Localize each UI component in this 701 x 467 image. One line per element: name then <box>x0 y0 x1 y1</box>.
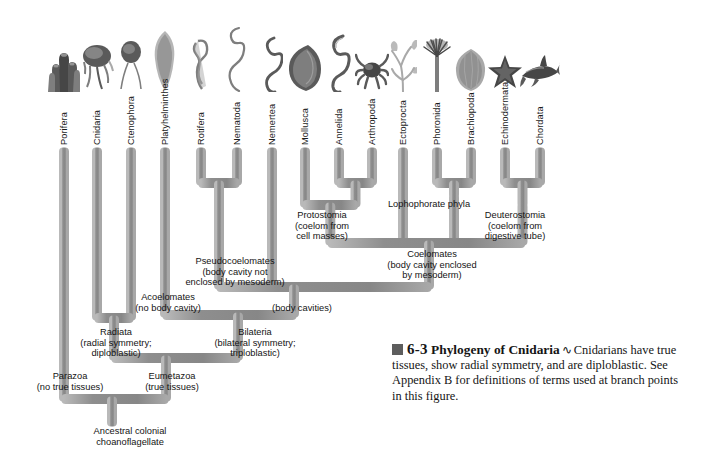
node-label-root: Ancestral colonial choanoflagellate <box>62 426 198 447</box>
taxon-label-rotifera: Rotifera <box>196 112 206 145</box>
filled-square-marker-icon <box>392 344 403 355</box>
branch-segment <box>110 399 115 424</box>
node-label-pseudocoelomates: Pseudocoelomates (body cavity not enclos… <box>162 256 308 288</box>
taxon-label-nemertea: Nemertea <box>267 104 277 145</box>
node-label-eumetazoa: Eumetazoa (true tissues) <box>124 371 220 392</box>
branch-segment <box>163 150 168 315</box>
taxon-label-brachiopoda: Brachiopoda <box>466 92 476 145</box>
branch-segment <box>95 150 100 318</box>
taxon-label-platyhelminthes: Platyhelminthes <box>160 79 170 145</box>
tilde-icon: ∿ <box>562 343 572 357</box>
taxon-label-cnidaria: Cnidaria <box>92 110 102 145</box>
node-label-radiata: Radiata (radial symmetry; diploblastic) <box>62 327 170 359</box>
taxon-label-nematoda: Nematoda <box>232 102 242 145</box>
taxon-label-phoronida: Phoronida <box>432 102 442 145</box>
node-label-body-cavities: (body cavities) <box>258 303 346 314</box>
taxon-label-mollusca: Mollusca <box>300 108 310 145</box>
node-label-coelomates: Coelomates (body cavity enclosed by meso… <box>358 249 506 281</box>
node-label-bilateria: Bilateria (bilateral symmetry; triplobla… <box>192 327 318 359</box>
node-label-lophophorate: Lophophorate phyla <box>381 199 477 210</box>
phylogeny-figure: PoriferaCnidariaCtenophoraPlatyhelminthe… <box>0 0 701 467</box>
node-label-deuterostomia: Deuterostomia (coelom from digestive tub… <box>474 210 556 242</box>
branch-segment <box>401 150 406 243</box>
node-label-acoelomates: Acoelomates (no body cavity) <box>118 292 218 313</box>
branch-segment <box>303 150 308 205</box>
caption-title: Phylogeny of Cnidaria <box>431 342 560 357</box>
figure-caption: 6-3 Phylogeny of Cnidaria∿Cnidarians hav… <box>392 342 688 404</box>
taxon-label-chordata: Chordata <box>535 106 545 145</box>
taxon-label-annelida: Annelida <box>334 108 344 145</box>
taxon-label-ectoprocta: Ectoprocta <box>398 100 408 145</box>
branch-segment <box>62 150 67 399</box>
taxon-label-echinodermata: Echinodermata <box>500 82 510 145</box>
branch-segment <box>520 183 525 205</box>
taxon-label-ctenophora: Ctenophora <box>126 96 136 145</box>
caption-number: 6-3 <box>407 341 428 357</box>
node-label-protostomia: Protostomia (coelom from cell masses) <box>282 210 362 242</box>
node-label-parazoa: Parazoa (no true tissues) <box>20 371 120 392</box>
taxon-label-arthropoda: Arthropoda <box>367 99 377 145</box>
taxon-label-porifera: Porifera <box>59 112 69 145</box>
